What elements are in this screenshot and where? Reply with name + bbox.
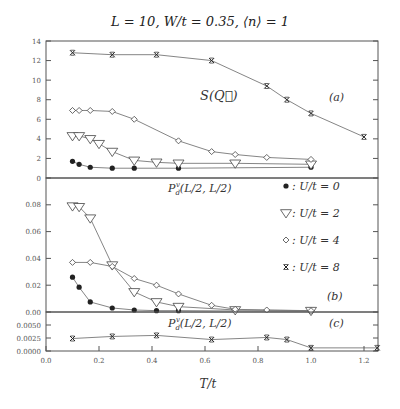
open-diamond-marker: [232, 152, 238, 158]
legend-label: : U/t = 0: [292, 180, 340, 193]
x-tick-label: 0.4: [146, 357, 158, 365]
y-tick-label: 0.00: [25, 309, 41, 317]
open-diamond-marker: [70, 107, 76, 113]
filled-circle-marker: [132, 166, 137, 171]
y-tick-label: 2: [37, 155, 41, 163]
open-triangle-down-marker: [94, 140, 105, 148]
legend-open-diamond-icon: [283, 237, 289, 243]
cross-marker: [284, 97, 289, 102]
filled-circle-marker: [70, 159, 75, 164]
legend-entry: : U/t = 2: [281, 207, 340, 220]
series-u-t-8: [70, 333, 380, 350]
open-triangle-down-marker: [151, 159, 162, 167]
panel-a-tag: (a): [329, 91, 344, 104]
legend-label: : U/t = 2: [292, 207, 340, 220]
y-tick-label: 0.0050: [17, 322, 42, 330]
open-triangle-down-marker: [173, 160, 184, 168]
open-diamond-marker: [109, 108, 115, 114]
y-tick-label: 0: [37, 175, 41, 183]
panel-c-quantity-label: Pdv(L/2, L/2): [167, 316, 231, 332]
legend-label: : U/t = 8: [292, 261, 340, 274]
legend-open-triangle-down-icon: [281, 210, 292, 218]
open-triangle-down-marker: [129, 157, 140, 165]
panel-c-tag: (c): [329, 317, 344, 330]
filled-circle-marker: [70, 275, 75, 280]
series-u-t-0-line: [73, 161, 312, 168]
panel-b-label-args: (L/2, L/2): [180, 182, 232, 195]
open-diamond-marker: [176, 291, 182, 297]
series-u-t-0: [70, 275, 314, 314]
panel-b-quantity-label: Pdv(L/2, L/2): [167, 181, 231, 197]
panel-a-quantity-label: S(Q⃗): [200, 88, 238, 103]
panel-b-plot-area: [67, 203, 317, 316]
open-diamond-marker: [87, 107, 93, 113]
open-diamond-marker: [176, 138, 182, 144]
y-tick-label: 0.04: [25, 255, 41, 263]
chart-figure: 02468101214 S(Q⃗) (a) 0.000.020.040.060.…: [0, 0, 400, 409]
series-u-t-4: [70, 259, 315, 313]
panel-b-tag: (b): [327, 290, 343, 303]
y-tick-label: 0.0025: [17, 335, 42, 343]
open-triangle-down-marker: [129, 289, 140, 297]
open-diamond-marker: [131, 276, 137, 282]
open-diamond-marker: [76, 107, 82, 113]
cross-marker: [362, 134, 367, 139]
cross-marker: [264, 84, 269, 89]
panel-a-y-axis: 02468101214: [32, 38, 378, 183]
filled-circle-marker: [77, 285, 82, 290]
legend-entry: : U/t = 4: [283, 234, 340, 247]
open-diamond-marker: [87, 259, 93, 265]
y-tick-label: 6: [37, 116, 42, 124]
panel-c: 0.00000.00250.0050 Pdv(L/2, L/2) (c): [17, 312, 380, 356]
y-tick-label: 12: [32, 57, 41, 65]
x-axis: 0.00.20.40.60.81.01.2: [40, 346, 369, 365]
panel-b: 0.000.020.040.060.08 Pdv(L/2, L/2) : U/t…: [25, 178, 378, 317]
filled-circle-marker: [77, 162, 82, 167]
y-tick-label: 0.06: [25, 228, 41, 236]
x-tick-label: 0.6: [199, 357, 211, 365]
x-tick-label: 1.2: [358, 357, 369, 365]
panel-c-label-args: (L/2, L/2): [180, 317, 232, 330]
y-tick-label: 4: [37, 135, 42, 143]
legend: : U/t = 0: U/t = 2: U/t = 4: U/t = 8: [281, 180, 340, 274]
panel-a: 02468101214 S(Q⃗) (a): [32, 38, 378, 183]
legend-filled-circle-icon: [283, 183, 288, 188]
series-u-t-2-line: [73, 206, 312, 311]
filled-circle-marker: [110, 166, 115, 171]
y-tick-label: 0.02: [25, 282, 41, 290]
cross-marker: [309, 111, 314, 116]
series-u-t-0-line: [73, 277, 312, 311]
filled-circle-marker: [88, 299, 93, 304]
legend-label: : U/t = 4: [292, 234, 340, 247]
series-u-t-4-line: [73, 262, 312, 310]
series-u-t-4-line: [73, 110, 312, 159]
open-triangle-down-marker: [85, 215, 96, 223]
open-triangle-down-marker: [230, 160, 241, 168]
x-axis-label: T/t: [200, 377, 217, 391]
series-u-t-8-line: [73, 335, 378, 347]
y-tick-label: 10: [32, 77, 41, 85]
open-triangle-down-marker: [85, 136, 96, 144]
x-tick-label: 1.0: [305, 357, 316, 365]
open-diamond-marker: [264, 154, 270, 160]
legend-entry: : U/t = 8: [284, 261, 340, 274]
open-diamond-marker: [154, 282, 160, 288]
series-u-t-0: [70, 159, 314, 171]
filled-circle-marker: [110, 305, 115, 310]
open-diamond-marker: [209, 149, 215, 155]
x-tick-label: 0.8: [252, 357, 263, 365]
open-diamond-marker: [131, 116, 137, 122]
y-tick-label: 0.08: [25, 201, 41, 209]
panel-a-plot-area: [67, 50, 367, 171]
x-tick-label: 0.0: [40, 357, 51, 365]
legend-cross-icon: [284, 265, 289, 270]
filled-circle-marker: [88, 165, 93, 170]
y-tick-label: 8: [37, 96, 41, 104]
panel-c-plot-area: [70, 333, 380, 350]
y-tick-label: 0.0000: [17, 348, 42, 356]
open-triangle-down-marker: [107, 148, 118, 156]
x-tick-label: 0.2: [93, 357, 104, 365]
y-tick-label: 14: [32, 38, 41, 46]
legend-entry: : U/t = 0: [283, 180, 339, 193]
series-u-t-2: [67, 133, 317, 170]
